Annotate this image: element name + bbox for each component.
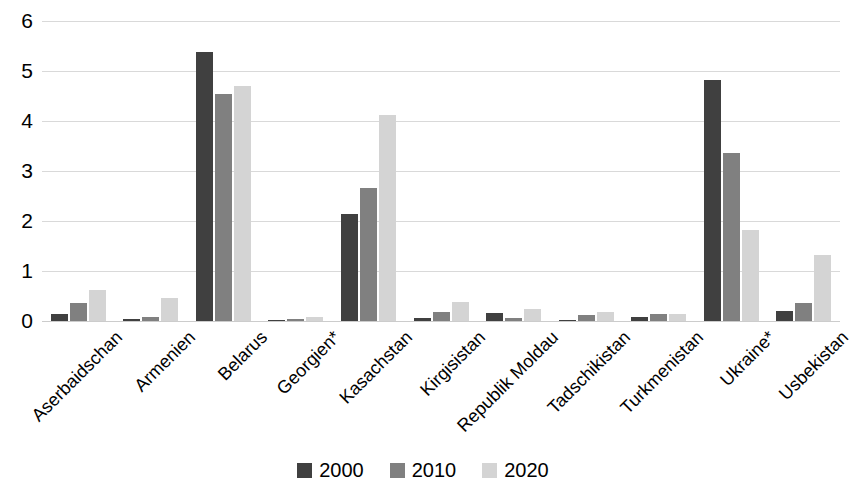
bar	[161, 298, 178, 322]
bar	[742, 230, 759, 321]
legend-item[interactable]: 2000	[297, 460, 364, 480]
plot-area	[42, 21, 840, 321]
bar	[452, 302, 469, 322]
y-axis-tick-label: 4	[21, 110, 33, 131]
bars-layer	[42, 21, 840, 321]
bar	[360, 188, 377, 321]
bar-group	[776, 21, 831, 321]
legend-item[interactable]: 2010	[390, 460, 457, 480]
bar-group	[196, 21, 251, 321]
legend-item[interactable]: 2020	[482, 460, 549, 480]
bar-group	[268, 21, 323, 321]
x-axis: AserbaidschanArmenienBelarusGeorgien*Kas…	[0, 321, 846, 451]
bar	[234, 86, 251, 321]
bar-group	[559, 21, 614, 321]
bar-group	[631, 21, 686, 321]
y-axis-tick-label: 6	[21, 10, 33, 31]
bar-group	[341, 21, 396, 321]
x-axis-tick-label: Ukraine*	[716, 327, 779, 390]
y-axis-tick-label: 2	[21, 210, 33, 231]
legend-label: 2020	[504, 460, 549, 480]
bar-group	[123, 21, 178, 321]
bar	[776, 311, 793, 322]
bar	[196, 52, 213, 321]
bar	[669, 314, 686, 321]
bar	[51, 314, 68, 321]
chart-legend: 200020102020	[0, 455, 846, 485]
bar	[89, 290, 106, 322]
x-axis-tick-label: Aserbaidschan	[28, 327, 126, 425]
x-axis-tick-label: Kirgisistan	[416, 327, 489, 400]
y-axis-tick-label: 5	[21, 60, 33, 81]
bar	[433, 312, 450, 322]
bar	[215, 94, 232, 321]
x-axis-tick-label: Georgien*	[273, 327, 344, 398]
legend-label: 2000	[319, 460, 364, 480]
bar	[795, 303, 812, 321]
bar-group	[704, 21, 759, 321]
legend-swatch-icon	[482, 463, 497, 478]
y-axis-tick-label: 1	[21, 260, 33, 281]
x-axis-tick-label: Kasachstan	[336, 327, 417, 408]
legend-swatch-icon	[297, 463, 312, 478]
bar-group	[486, 21, 541, 321]
x-axis-tick-label: Armenien	[130, 327, 199, 396]
y-axis-tick-label: 3	[21, 160, 33, 181]
bar	[650, 314, 667, 321]
x-axis-tick-label: Usbekistan	[775, 327, 852, 404]
bar	[341, 214, 358, 322]
bar	[379, 115, 396, 321]
bar	[70, 303, 87, 322]
bar-group	[414, 21, 469, 321]
bar	[814, 255, 831, 321]
bar-group	[51, 21, 106, 321]
legend-label: 2010	[412, 460, 457, 480]
x-axis-tick-label: Belarus	[214, 327, 271, 384]
bar	[597, 312, 614, 321]
legend-swatch-icon	[390, 463, 405, 478]
bar	[524, 309, 541, 322]
bar	[704, 80, 721, 321]
bar	[723, 153, 740, 322]
bar	[486, 313, 503, 322]
